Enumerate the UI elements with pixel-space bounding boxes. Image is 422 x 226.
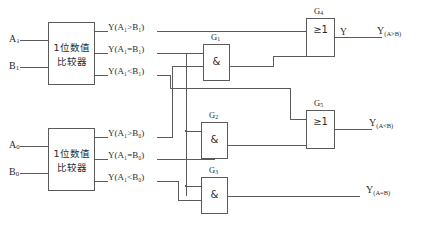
input-b0-label: B0 [9,167,19,178]
comparator-low-label: 1位数值 比较器 [48,147,95,175]
comparator-high-label-line1: 1位数值 [48,41,95,55]
wire-a0lt-run [157,181,202,200]
comparator-high-label-line2: 比较器 [48,55,95,69]
wire-g1-out [230,56,307,66]
gate-g3-label: G3 [209,166,218,176]
out-a0-gt-b0-label: Y(A₁>B₀) [108,129,144,138]
gate-g5-symbol: ≥1 [307,117,334,127]
comparator-low-label-line1: 1位数值 [48,147,95,161]
gate-g1-label: G1 [211,33,220,43]
logic-circuit-diagram: 1位数值 比较器 1位数值 比较器 A1 B1 A0 B0 Y(A₁>B₁) Y… [0,0,422,226]
output-a-gt-b-label: Y(A>B) [377,26,401,37]
wire-a0gt-run [157,66,204,137]
gate-g5-label: G5 [314,99,323,109]
gate-g2-symbol: & [201,135,228,145]
out-a1-eq-b1-label: Y(A₁=B₁) [108,45,144,54]
gate-g1-symbol: & [203,57,230,67]
output-a-eq-b-label: Y(A=B) [366,185,390,196]
output-a-lt-b-label: Y(A<B) [369,118,393,129]
input-a0-label: A0 [9,140,20,151]
comparator-high-label: 1位数值 比较器 [48,41,95,69]
gate-g2-label: G2 [209,111,218,121]
out-a0-eq-b0-label: Y(A₁=B₀) [108,151,144,160]
gate-g4-label: G4 [314,7,323,17]
gate-g4-symbol: ≥1 [307,25,334,35]
out-a0-lt-b0-label: Y(A₁<B₀) [108,173,144,182]
comparator-low-label-line2: 比较器 [48,161,95,175]
input-b1-label: B1 [9,61,19,72]
out-a1-lt-b1-label: Y(A₁<B₁) [108,67,144,76]
node-y-label: Y [340,28,347,38]
wire-a1lt-run [157,75,307,119]
gate-g3-symbol: & [201,190,228,200]
out-a1-gt-b1-label: Y(A₁>B₁) [108,23,144,32]
input-a1-label: A1 [9,34,20,45]
